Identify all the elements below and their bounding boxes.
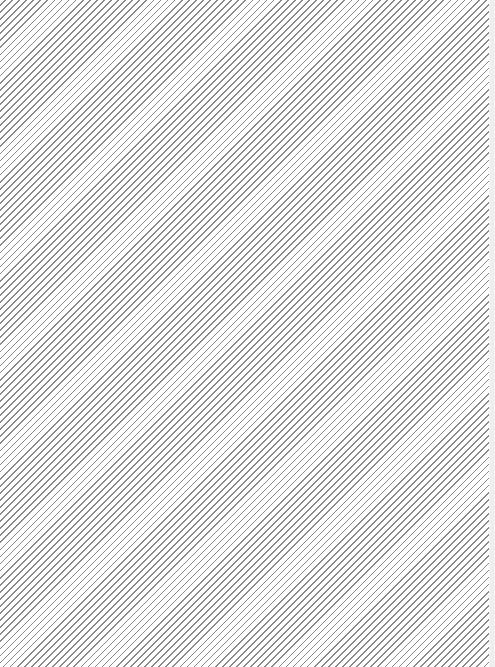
scrollbar[interactable] (489, 0, 495, 667)
hatched-canvas (0, 0, 489, 667)
scrollbar-thumb[interactable] (490, 0, 494, 667)
